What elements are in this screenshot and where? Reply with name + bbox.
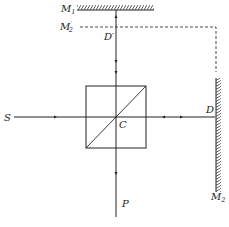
- arrow-icon: [115, 15, 118, 18]
- point-d-label: D: [205, 104, 214, 115]
- arrow-icon: [180, 116, 183, 119]
- mirror-m1-label: M1: [60, 3, 75, 16]
- point-d-prime-label: D′: [103, 31, 115, 42]
- arrow-icon: [115, 60, 118, 63]
- mirror-m2: [216, 78, 221, 192]
- arrow-icon: [54, 116, 57, 119]
- direction-markers: [54, 15, 183, 175]
- mirror-m2-image-dashed: [80, 27, 216, 72]
- arrow-icon: [115, 172, 118, 175]
- michelson-interferometer-diagram: M1 M′2 D′ D M2 S C P: [0, 0, 229, 227]
- output-label: P: [121, 198, 129, 209]
- center-label: C: [119, 119, 127, 130]
- mirror-m2-label: M2: [210, 191, 225, 204]
- mirror-m1: [77, 5, 154, 10]
- arrow-icon: [115, 71, 118, 74]
- source-label: S: [4, 112, 11, 123]
- arrow-icon: [162, 116, 165, 119]
- mirror-m2-image-label: M′2: [59, 20, 73, 34]
